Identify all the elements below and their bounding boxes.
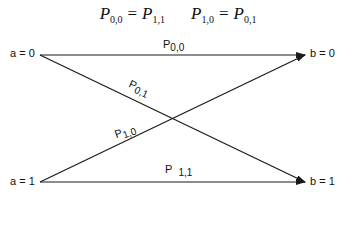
node-b0: b = 0 bbox=[310, 47, 335, 59]
node-b1: b = 1 bbox=[310, 175, 335, 187]
edge-label-p00: P0,0 bbox=[163, 38, 184, 53]
node-a0: a = 0 bbox=[10, 47, 35, 59]
edge-label-p11: P 1,1 bbox=[165, 163, 192, 178]
node-a1: a = 1 bbox=[10, 175, 35, 187]
